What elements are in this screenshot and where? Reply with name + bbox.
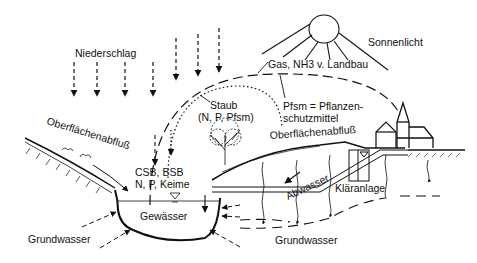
sunlight-label: Sonnenlicht: [368, 36, 423, 48]
groundwater-right-label: Grundwasser: [275, 234, 338, 246]
dust-label: Staub: [210, 99, 238, 111]
treatment-plant-label: Kläranlage: [335, 182, 385, 194]
pollutants-line1: CSB, BSB: [135, 166, 183, 178]
dust-detail-label: (N, P, Pfsm): [198, 111, 254, 123]
groundwater-left-label: Grundwasser: [28, 233, 91, 245]
church-icon: [397, 103, 433, 148]
runoff-left-label: Oberflächenabfluß: [45, 114, 131, 151]
water-body-label: Gewässer: [140, 210, 188, 222]
pfsm-definition-line2: schutzmittel: [283, 112, 338, 124]
house-icon: [376, 122, 396, 148]
precipitation-label: Niederschlag: [75, 47, 136, 59]
tree-icon: [210, 118, 241, 165]
water-pollution-sources-diagram: Niederschlag Sonnenlicht Gas, NH3 v. Lan…: [0, 0, 477, 263]
pollutants-line2: N, P, Keime: [135, 178, 190, 190]
gas-label: Gas, NH3 v. Landbau: [268, 58, 368, 70]
pfsm-definition-line1: Pfsm = Pflanzen-: [283, 100, 364, 112]
groundwater-table-line: [240, 196, 440, 228]
runoff-right-label: Oberflächenabfluß: [269, 123, 356, 141]
precipitation-arrows: [74, 28, 219, 96]
